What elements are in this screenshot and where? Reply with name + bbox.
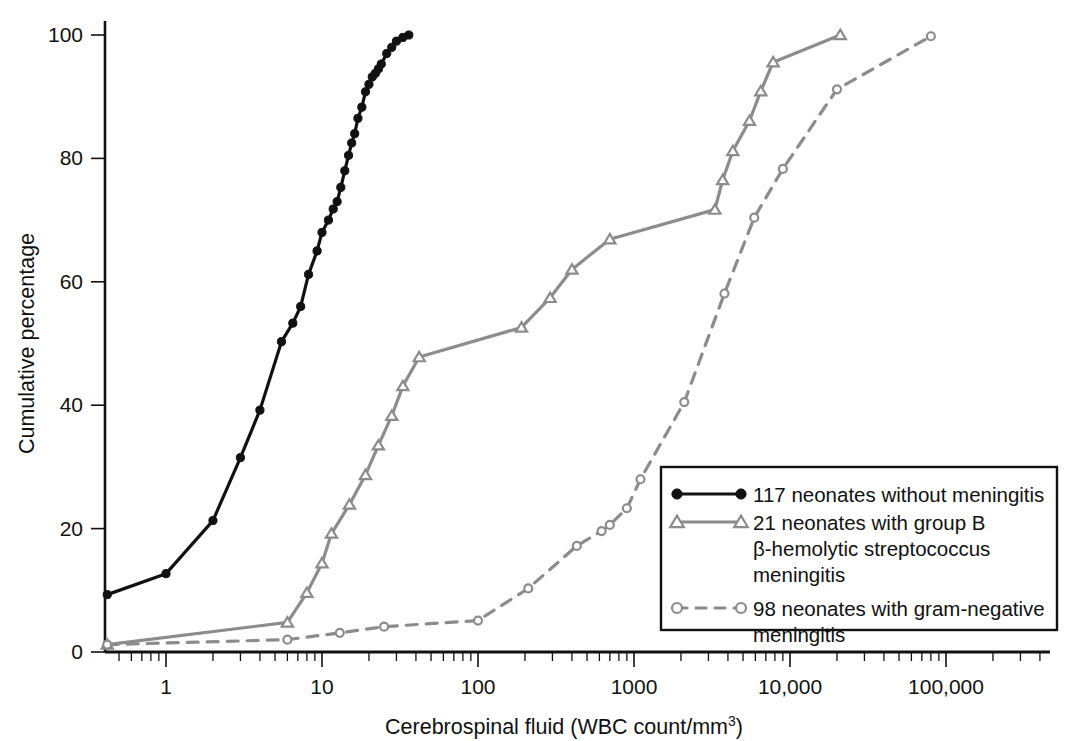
x-axis-tick-label: 10 xyxy=(310,675,333,698)
legend-label: meningitis xyxy=(753,623,845,646)
series-0 xyxy=(103,31,413,599)
series-line xyxy=(107,35,409,595)
data-point-open-circle xyxy=(598,527,606,535)
data-point-open-triangle xyxy=(604,234,615,243)
legend-label: meningitis xyxy=(753,563,845,586)
data-point-filled-circle xyxy=(236,454,244,462)
data-point-open-triangle xyxy=(316,558,327,567)
x-axis-tick-label: 1000 xyxy=(611,675,658,698)
data-point-open-circle xyxy=(750,214,758,222)
data-point-open-circle xyxy=(623,504,631,512)
x-axis-tick-label: 1 xyxy=(160,675,172,698)
data-point-filled-circle xyxy=(313,247,321,255)
data-point-filled-circle xyxy=(297,302,305,310)
chart-legend[interactable]: 117 neonates without meningitis21 neonat… xyxy=(661,467,1057,646)
data-point-open-circle xyxy=(720,290,728,298)
data-point-filled-circle xyxy=(672,489,682,499)
legend-label: 98 neonates with gram-negative xyxy=(753,597,1045,620)
data-point-open-circle xyxy=(380,623,388,631)
data-point-open-triangle xyxy=(386,410,397,419)
data-point-open-triangle xyxy=(373,440,384,449)
data-point-open-triangle xyxy=(755,86,766,95)
data-point-open-circle xyxy=(283,636,291,644)
x-axis-tick-label: 100,000 xyxy=(908,675,984,698)
data-point-filled-circle xyxy=(354,114,362,122)
y-axis-title: Cumulative percentage xyxy=(15,233,39,454)
data-point-open-triangle xyxy=(344,499,355,508)
y-axis-tick-label: 0 xyxy=(71,640,83,663)
y-axis-tick-label: 40 xyxy=(60,393,83,416)
chart-figure: 020406080100110100100010,000100,000Cereb… xyxy=(0,0,1066,741)
data-point-filled-circle xyxy=(103,591,111,599)
data-point-filled-circle xyxy=(348,139,356,147)
data-point-open-circle xyxy=(736,603,746,613)
data-point-open-triangle xyxy=(835,30,846,39)
y-axis-tick-label: 80 xyxy=(60,146,83,169)
data-point-open-triangle xyxy=(414,352,425,361)
data-point-open-triangle xyxy=(744,116,755,125)
data-point-filled-circle xyxy=(736,489,746,499)
y-axis-tick-label: 60 xyxy=(60,270,83,293)
data-point-filled-circle xyxy=(358,103,366,111)
data-point-open-circle xyxy=(927,32,935,40)
data-point-filled-circle xyxy=(333,197,341,205)
data-point-filled-circle xyxy=(162,570,170,578)
data-point-open-triangle xyxy=(301,588,312,597)
data-point-filled-circle xyxy=(344,151,352,159)
data-point-open-triangle xyxy=(717,175,728,184)
data-point-filled-circle xyxy=(256,406,264,414)
data-point-open-circle xyxy=(606,521,614,529)
cumulative-percentage-chart: 020406080100110100100010,000100,000Cereb… xyxy=(0,0,1066,741)
data-point-open-circle xyxy=(524,584,532,592)
data-point-filled-circle xyxy=(277,338,285,346)
data-point-open-circle xyxy=(680,398,688,406)
data-point-open-triangle xyxy=(768,57,779,66)
y-axis-tick-label: 100 xyxy=(48,23,83,46)
legend-label: 21 neonates with group B xyxy=(753,511,986,534)
data-point-filled-circle xyxy=(351,130,359,138)
data-point-filled-circle xyxy=(324,216,332,224)
data-point-open-triangle xyxy=(360,470,371,479)
data-point-filled-circle xyxy=(209,516,217,524)
data-point-open-circle xyxy=(672,603,682,613)
data-point-filled-circle xyxy=(377,60,385,68)
data-point-filled-circle xyxy=(318,228,326,236)
data-point-open-circle xyxy=(573,542,581,550)
data-point-filled-circle xyxy=(341,167,349,175)
legend-label: 117 neonates without meningitis xyxy=(753,483,1044,506)
data-point-filled-circle xyxy=(304,270,312,278)
x-axis-tick-label: 10,000 xyxy=(758,675,822,698)
data-point-filled-circle xyxy=(289,319,297,327)
data-point-filled-circle xyxy=(337,183,345,191)
legend-label: β-hemolytic streptococcus xyxy=(753,537,990,560)
data-point-filled-circle xyxy=(329,205,337,213)
data-point-filled-circle xyxy=(405,31,413,39)
data-point-open-circle xyxy=(779,165,787,173)
x-axis-tick-label: 100 xyxy=(460,675,495,698)
x-axis-title: Cerebrospinal fluid (WBC count/mm3) xyxy=(385,713,743,739)
data-point-open-triangle xyxy=(709,204,720,213)
data-point-open-circle xyxy=(103,641,111,649)
y-axis-tick-label: 20 xyxy=(60,517,83,540)
data-point-open-circle xyxy=(474,617,482,625)
data-point-open-circle xyxy=(336,629,344,637)
data-point-open-circle xyxy=(636,475,644,483)
data-point-open-circle xyxy=(833,85,841,93)
